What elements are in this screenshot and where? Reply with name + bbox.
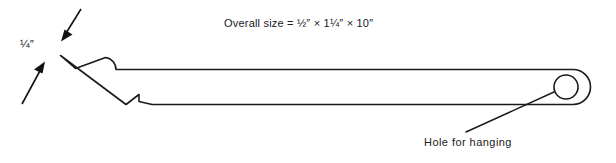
hanging-hole [554, 75, 578, 99]
thickness-arrow-lower [22, 62, 45, 105]
overall-size-note: Overall size = ½″ × 1¼″ × 10″ [224, 17, 373, 29]
thickness-arrow-upper [61, 9, 81, 42]
thickness-dimension-label: ¼″ [20, 38, 34, 50]
tool-profile-outline [61, 56, 591, 105]
hole-callout-label: Hole for hanging [424, 136, 512, 148]
technical-drawing-canvas: Overall size = ½″ × 1¼″ × 10″ ¼″ Hole fo… [0, 0, 616, 163]
hole-leader-line [466, 92, 554, 132]
